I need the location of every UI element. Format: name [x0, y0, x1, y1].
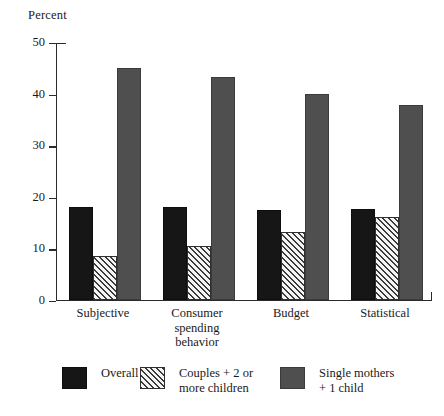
- y-tick-mark: [49, 198, 56, 199]
- bar: [257, 210, 281, 300]
- bar: [69, 207, 93, 300]
- legend-label: Couples + 2 or more children: [179, 366, 253, 395]
- bar: [117, 68, 141, 299]
- y-tick-mark: [49, 301, 56, 302]
- y-tick-mark: [49, 249, 56, 250]
- x-axis-line: [56, 300, 432, 301]
- y-axis-top-cap: [56, 43, 66, 44]
- y-tick-label: 0: [39, 293, 45, 308]
- x-axis-category-labels: SubjectiveConsumer spending behaviorBudg…: [56, 306, 432, 368]
- poverty-rate-bar-chart: Percent 01020304050 SubjectiveConsumer s…: [0, 0, 444, 416]
- y-tick-label: 10: [33, 242, 46, 257]
- y-tick-label: 40: [33, 87, 46, 102]
- bar: [375, 217, 399, 300]
- y-tick-mark: [49, 146, 56, 147]
- x-axis-label: Consumer spending behavior: [150, 306, 244, 350]
- x-axis-label: Statistical: [338, 306, 432, 321]
- bar: [281, 232, 305, 300]
- legend-item: Overall: [62, 366, 138, 389]
- y-tick-label: 30: [33, 138, 46, 153]
- legend-item: Couples + 2 or more children: [140, 366, 253, 395]
- x-axis-label: Budget: [244, 306, 338, 321]
- legend-label: Single mothers + 1 child: [319, 366, 394, 395]
- bar: [399, 105, 423, 300]
- bar: [211, 77, 235, 300]
- bar: [305, 94, 329, 300]
- legend-swatch: [62, 367, 87, 389]
- chart-legend: OverallCouples + 2 or more childrenSingl…: [0, 366, 444, 412]
- y-axis-line: [56, 43, 57, 301]
- legend-label: Overall: [101, 366, 138, 381]
- bar: [351, 209, 375, 299]
- plot-area: 01020304050: [56, 43, 432, 301]
- legend-swatch: [140, 367, 165, 389]
- bar: [187, 246, 211, 299]
- y-axis-title: Percent: [28, 8, 67, 23]
- y-tick-label: 50: [33, 35, 46, 50]
- bar: [163, 207, 187, 300]
- y-tick-label: 20: [33, 190, 46, 205]
- y-tick-mark: [49, 43, 56, 44]
- legend-swatch: [280, 367, 305, 389]
- x-axis-right-cap: [431, 292, 432, 301]
- bar: [93, 256, 117, 300]
- y-tick-mark: [49, 95, 56, 96]
- legend-item: Single mothers + 1 child: [280, 366, 394, 395]
- x-axis-label: Subjective: [56, 306, 150, 321]
